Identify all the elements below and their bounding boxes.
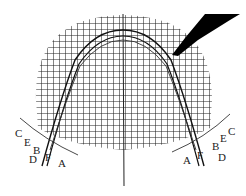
label-left-f: F bbox=[45, 152, 51, 163]
label-right-a: A bbox=[183, 155, 191, 166]
arch-diagram bbox=[0, 0, 246, 196]
label-right-c: C bbox=[228, 126, 235, 137]
label-right-f: F bbox=[197, 150, 203, 161]
label-right-d: D bbox=[218, 152, 226, 163]
label-right-e: E bbox=[220, 133, 227, 144]
diagram-canvas: C E B D F A A F B E C D bbox=[0, 0, 246, 196]
label-left-a: A bbox=[58, 158, 66, 169]
label-left-e: E bbox=[24, 137, 31, 148]
label-left-c: C bbox=[15, 128, 22, 139]
label-left-d: D bbox=[29, 154, 37, 165]
